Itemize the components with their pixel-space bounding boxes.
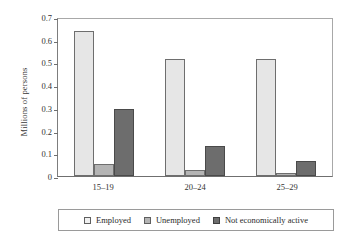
legend-label: Employed	[96, 215, 131, 225]
bar[interactable]	[165, 59, 185, 176]
y-axis-title: Millions of persons	[19, 32, 29, 172]
legend-item[interactable]: Unemployed	[144, 215, 200, 225]
y-tick-label: 0.4	[41, 81, 52, 91]
y-tick-mark	[54, 178, 58, 179]
x-axis-label: 20–24	[149, 182, 241, 192]
y-tick-label: 0.2	[41, 127, 52, 137]
legend-label: Not economically active	[225, 215, 308, 225]
x-axis-labels: 15–1920–2425–29	[57, 182, 333, 192]
y-tick-label: 0.5	[41, 58, 52, 68]
x-axis-label: 15–19	[57, 182, 149, 192]
legend-label: Unemployed	[156, 215, 200, 225]
y-tick-label: 0	[48, 172, 52, 182]
bar[interactable]	[94, 164, 114, 176]
y-tick-label: 0.1	[41, 149, 52, 159]
legend-swatch-icon	[84, 217, 91, 224]
legend-swatch-icon	[213, 217, 220, 224]
bar-group	[241, 19, 332, 176]
x-axis-label: 25–29	[241, 182, 333, 192]
y-tick-label: 0.7	[41, 13, 52, 23]
legend-swatch-icon	[144, 217, 151, 224]
legend-item[interactable]: Employed	[84, 215, 131, 225]
bar-groups	[58, 19, 332, 176]
y-tick-label: 0.6	[41, 36, 52, 46]
plot-area: 00.10.20.30.40.50.60.7	[57, 18, 333, 177]
y-tick-label: 0.3	[41, 104, 52, 114]
bar-group	[58, 19, 149, 176]
bar-group	[149, 19, 240, 176]
bar[interactable]	[185, 170, 205, 176]
bar[interactable]	[256, 59, 276, 176]
bar[interactable]	[276, 173, 296, 176]
chart-legend: EmployedUnemployedNot economically activ…	[58, 209, 334, 231]
legend-item[interactable]: Not economically active	[213, 215, 308, 225]
bar-chart: Millions of persons 00.10.20.30.40.50.60…	[0, 0, 346, 237]
bar[interactable]	[74, 31, 94, 176]
bar[interactable]	[114, 109, 134, 176]
bar[interactable]	[296, 161, 316, 176]
bar[interactable]	[205, 146, 225, 176]
